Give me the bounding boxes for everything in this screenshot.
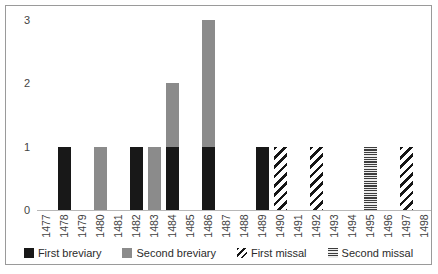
- x-tick-label-1485: 1485: [184, 211, 196, 241]
- x-tick-label-1497: 1497: [400, 211, 412, 241]
- legend-label: Second missal: [342, 247, 414, 259]
- x-tick-label-1481: 1481: [112, 211, 124, 241]
- x-tick-label-1480: 1480: [94, 211, 106, 241]
- plot-area: 0123 14771478147914801481148214831484148…: [6, 6, 431, 264]
- y-tick-label: 2: [10, 77, 30, 89]
- x-tick-label-1495: 1495: [364, 211, 376, 241]
- x-tick-label-1493: 1493: [328, 211, 340, 241]
- x-tick-label-1489: 1489: [256, 211, 268, 241]
- x-tick-label-1487: 1487: [220, 211, 232, 241]
- legend-label: Second breviary: [136, 247, 216, 259]
- legend-swatch-solid-gray-icon: [122, 248, 132, 258]
- x-tick-label-1494: 1494: [346, 211, 358, 241]
- legend-item: First breviary: [24, 247, 102, 259]
- x-tick-label-1477: 1477: [40, 211, 52, 241]
- bar-diagonal-stripes-1492: [310, 147, 323, 210]
- y-tick-label: 1: [10, 141, 30, 153]
- legend-item: Second missal: [328, 247, 414, 259]
- x-tick-label-1479: 1479: [76, 211, 88, 241]
- x-tick-label-1484: 1484: [166, 211, 178, 241]
- y-tick-label: 0: [10, 204, 30, 216]
- legend-label: First breviary: [38, 247, 102, 259]
- bar-solid-gray-1480: [94, 147, 107, 210]
- x-tick-label-1486: 1486: [202, 211, 214, 241]
- chart-frame: 0123 14771478147914801481148214831484148…: [5, 5, 432, 265]
- x-tick-label-1488: 1488: [238, 211, 250, 241]
- bar-solid-black-1484: [166, 147, 179, 210]
- legend-swatch-solid-black-icon: [24, 248, 34, 258]
- x-tick-label-1496: 1496: [382, 211, 394, 241]
- bar-diagonal-stripes-1497: [400, 147, 413, 210]
- bar-solid-black-1478: [58, 147, 71, 210]
- bar-solid-black-1489: [256, 147, 269, 210]
- bar-solid-black-1482: [130, 147, 143, 210]
- bar-solid-gray-1486: [202, 20, 215, 147]
- x-tick-label-1478: 1478: [58, 211, 70, 241]
- chart-legend: First breviarySecond breviaryFirst missa…: [6, 247, 431, 259]
- x-tick-label-1490: 1490: [274, 211, 286, 241]
- legend-label: First missal: [251, 247, 307, 259]
- bar-solid-black-1486: [202, 147, 215, 210]
- x-tick-label-1498: 1498: [418, 211, 430, 241]
- legend-swatch-horizontal-stripes-icon: [328, 248, 338, 258]
- x-tick-label-1492: 1492: [310, 211, 322, 241]
- x-tick-label-1483: 1483: [148, 211, 160, 241]
- chart-screenshot: { "chart_data": { "type": "bar", "stacke…: [0, 0, 438, 274]
- legend-swatch-diagonal-stripes-icon: [237, 248, 247, 258]
- bar-solid-gray-1483: [148, 147, 161, 210]
- bar-diagonal-stripes-1490: [274, 147, 287, 210]
- bar-horizontal-stripes-1495: [364, 147, 377, 210]
- legend-item: First missal: [237, 247, 307, 259]
- x-tick-label-1491: 1491: [292, 211, 304, 241]
- legend-item: Second breviary: [122, 247, 216, 259]
- y-tick-label: 3: [10, 14, 30, 26]
- x-tick-label-1482: 1482: [130, 211, 142, 241]
- bar-solid-gray-1484: [166, 83, 179, 146]
